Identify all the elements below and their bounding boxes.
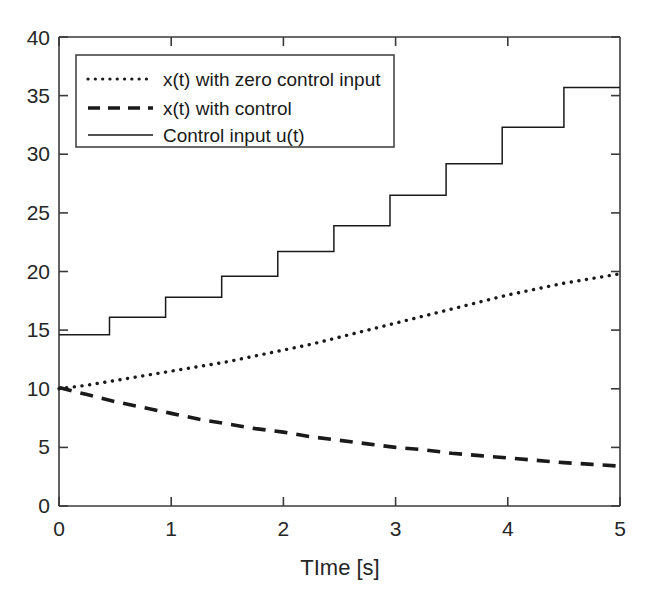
y-tick-label: 20	[27, 260, 50, 283]
y-tick-label: 40	[27, 26, 50, 49]
control-system-plot: 0 5 10 15 20 25 30 35 40 0 1 2 3 4 5 TIm…	[0, 0, 645, 590]
x-tick-label: 4	[502, 517, 514, 540]
chart-figure: 0 5 10 15 20 25 30 35 40 0 1 2 3 4 5 TIm…	[0, 0, 645, 590]
x-tick-label: 3	[390, 517, 402, 540]
x-axis-title: TIme [s]	[300, 555, 379, 580]
y-tick-label: 25	[27, 201, 50, 224]
y-tick-label: 35	[27, 84, 50, 107]
y-tick-label: 30	[27, 142, 50, 165]
x-tick-label: 1	[165, 517, 177, 540]
y-tick-label: 0	[38, 494, 50, 517]
y-tick-label: 10	[27, 377, 50, 400]
y-tick-label: 5	[38, 435, 50, 458]
x-tick-label: 2	[278, 517, 290, 540]
legend: x(t) with zero control input x(t) with c…	[76, 55, 394, 147]
legend-label: x(t) with zero control input	[163, 69, 381, 90]
x-tick-label: 0	[53, 517, 65, 540]
legend-label: Control input u(t)	[163, 125, 305, 146]
legend-label: x(t) with control	[163, 98, 292, 119]
x-tick-label: 5	[614, 517, 626, 540]
y-tick-label: 15	[27, 318, 50, 341]
